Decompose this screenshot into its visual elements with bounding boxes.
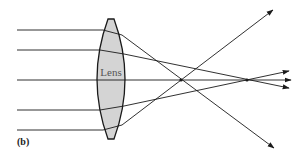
outer-focus-point bbox=[179, 78, 182, 81]
ray-upper-paraxial bbox=[124, 54, 289, 88]
incident-rays bbox=[17, 30, 103, 130]
paraxial-focus-point bbox=[245, 78, 248, 81]
ray-top-outer bbox=[122, 35, 274, 148]
ray-lower-paraxial bbox=[124, 71, 289, 106]
lens-ray-diagram: Lens (b) bbox=[0, 0, 300, 161]
convex-lens bbox=[97, 19, 125, 139]
lens-label: Lens bbox=[100, 66, 121, 78]
panel-label: (b) bbox=[17, 136, 29, 148]
ray-bottom-outer bbox=[122, 10, 273, 125]
